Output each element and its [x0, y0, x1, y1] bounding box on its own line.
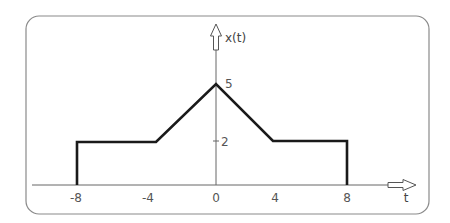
- x-tick-label-minus4: -4: [142, 191, 154, 205]
- x-axis-label: t: [404, 191, 409, 205]
- x-tick-label-4: 4: [271, 191, 279, 205]
- plot-frame: [26, 16, 429, 214]
- x-axis-arrow-icon: [388, 180, 416, 191]
- signal-curve: [77, 84, 347, 185]
- x-tick-label-8: 8: [343, 191, 351, 205]
- y-tick-label-5: 5: [225, 77, 233, 91]
- x-tick-label-minus8: -8: [70, 191, 82, 205]
- signal-plot: x(t) 5 2 -8 -4 0 4 8 t: [0, 0, 450, 223]
- y-axis-label: x(t): [225, 31, 246, 45]
- x-tick-label-0: 0: [212, 191, 220, 205]
- y-tick-label-2: 2: [221, 135, 229, 149]
- y-axis-arrow-icon: [211, 24, 222, 50]
